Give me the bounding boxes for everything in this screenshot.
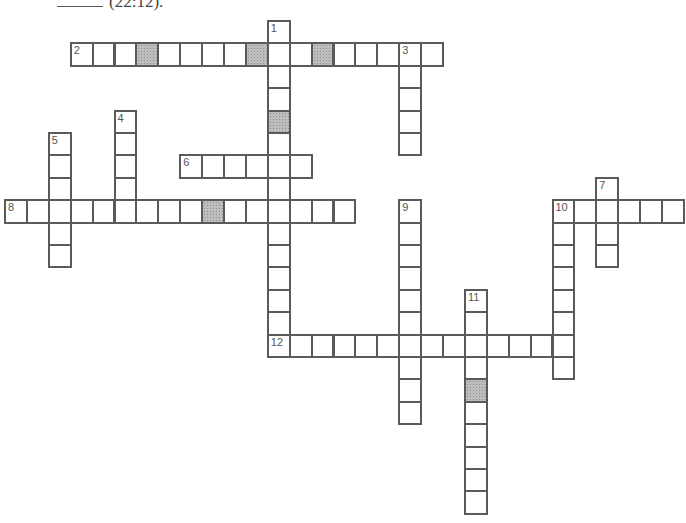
crossword-cell[interactable] <box>267 289 291 313</box>
crossword-cell[interactable]: 5 <box>48 132 72 156</box>
crossword-cell[interactable] <box>617 199 641 223</box>
crossword-cell[interactable] <box>48 177 72 201</box>
crossword-cell[interactable] <box>354 334 378 358</box>
crossword-cell[interactable] <box>48 154 72 178</box>
crossword-cell[interactable] <box>398 401 422 425</box>
crossword-cell[interactable] <box>333 199 357 223</box>
crossword-cell[interactable] <box>442 334 466 358</box>
crossword-cell[interactable] <box>157 199 181 223</box>
crossword-cell[interactable] <box>267 42 291 66</box>
crossword-cell[interactable] <box>267 177 291 201</box>
crossword-cell[interactable] <box>398 378 422 402</box>
crossword-cell[interactable] <box>573 199 597 223</box>
crossword-cell[interactable] <box>201 42 225 66</box>
crossword-cell[interactable] <box>552 334 576 358</box>
crossword-cell[interactable] <box>289 42 313 66</box>
crossword-cell[interactable]: 1 <box>267 20 291 44</box>
crossword-cell[interactable]: 7 <box>595 177 619 201</box>
crossword-cell[interactable] <box>267 244 291 268</box>
crossword-cell[interactable] <box>114 132 138 156</box>
crossword-cell[interactable]: 6 <box>179 154 203 178</box>
crossword-cell[interactable] <box>267 154 291 178</box>
crossword-cell[interactable]: 4 <box>114 110 138 134</box>
crossword-cell[interactable] <box>333 334 357 358</box>
crossword-cell[interactable] <box>311 199 335 223</box>
crossword-cell[interactable] <box>552 222 576 246</box>
crossword-cell[interactable] <box>114 154 138 178</box>
crossword-cell[interactable] <box>289 154 313 178</box>
crossword-cell[interactable] <box>464 490 488 514</box>
crossword-cell[interactable] <box>354 42 378 66</box>
crossword-cell[interactable] <box>267 199 291 223</box>
crossword-cell[interactable] <box>464 356 488 380</box>
crossword-cell[interactable] <box>289 199 313 223</box>
crossword-cell[interactable] <box>552 289 576 313</box>
crossword-cell[interactable] <box>398 356 422 380</box>
crossword-cell[interactable] <box>157 42 181 66</box>
crossword-cell[interactable] <box>26 199 50 223</box>
crossword-cell[interactable] <box>595 244 619 268</box>
crossword-cell[interactable] <box>398 222 422 246</box>
crossword-cell[interactable] <box>48 244 72 268</box>
crossword-cell[interactable] <box>464 423 488 447</box>
crossword-cell[interactable] <box>267 222 291 246</box>
crossword-cell[interactable] <box>245 154 269 178</box>
crossword-cell[interactable]: 3 <box>398 42 422 66</box>
crossword-cell[interactable] <box>267 132 291 156</box>
crossword-cell[interactable] <box>398 132 422 156</box>
crossword-cell[interactable] <box>135 199 159 223</box>
crossword-cell[interactable] <box>179 42 203 66</box>
crossword-cell[interactable] <box>552 356 576 380</box>
crossword-cell[interactable] <box>464 468 488 492</box>
crossword-cell[interactable] <box>267 266 291 290</box>
crossword-cell[interactable] <box>267 311 291 335</box>
crossword-cell[interactable] <box>48 222 72 246</box>
crossword-cell[interactable] <box>398 311 422 335</box>
crossword-cell[interactable] <box>398 87 422 111</box>
crossword-cell[interactable] <box>661 199 685 223</box>
crossword-cell[interactable]: 9 <box>398 199 422 223</box>
crossword-cell[interactable] <box>70 199 94 223</box>
crossword-cell[interactable] <box>552 311 576 335</box>
crossword-cell[interactable] <box>114 177 138 201</box>
crossword-cell[interactable] <box>398 244 422 268</box>
crossword-cell[interactable] <box>92 42 116 66</box>
crossword-cell[interactable] <box>508 334 532 358</box>
crossword-cell[interactable] <box>92 199 116 223</box>
crossword-cell[interactable] <box>464 446 488 470</box>
crossword-cell[interactable] <box>595 199 619 223</box>
crossword-cell[interactable] <box>398 266 422 290</box>
crossword-cell[interactable] <box>48 199 72 223</box>
crossword-cell[interactable] <box>639 199 663 223</box>
crossword-cell[interactable] <box>223 42 247 66</box>
crossword-cell[interactable] <box>114 42 138 66</box>
crossword-cell[interactable] <box>552 244 576 268</box>
crossword-cell[interactable]: 8 <box>4 199 28 223</box>
crossword-cell[interactable] <box>201 154 225 178</box>
crossword-cell[interactable] <box>333 42 357 66</box>
crossword-cell[interactable] <box>486 334 510 358</box>
crossword-cell[interactable]: 11 <box>464 289 488 313</box>
crossword-cell[interactable]: 2 <box>70 42 94 66</box>
crossword-cell[interactable] <box>464 401 488 425</box>
crossword-cell[interactable] <box>114 199 138 223</box>
crossword-cell[interactable] <box>420 334 444 358</box>
crossword-cell[interactable] <box>464 311 488 335</box>
crossword-cell[interactable]: 10 <box>552 199 576 223</box>
crossword-cell[interactable] <box>398 334 422 358</box>
crossword-cell[interactable] <box>398 110 422 134</box>
crossword-cell[interactable] <box>398 65 422 89</box>
crossword-cell[interactable] <box>376 334 400 358</box>
crossword-cell[interactable] <box>245 199 269 223</box>
crossword-cell[interactable] <box>464 334 488 358</box>
crossword-cell[interactable] <box>223 154 247 178</box>
crossword-cell[interactable] <box>420 42 444 66</box>
crossword-cell[interactable] <box>223 199 247 223</box>
crossword-cell[interactable] <box>552 266 576 290</box>
crossword-cell[interactable] <box>179 199 203 223</box>
crossword-cell[interactable] <box>595 222 619 246</box>
crossword-cell[interactable]: 12 <box>267 334 291 358</box>
crossword-cell[interactable] <box>267 65 291 89</box>
crossword-cell[interactable] <box>530 334 554 358</box>
crossword-cell[interactable] <box>311 334 335 358</box>
